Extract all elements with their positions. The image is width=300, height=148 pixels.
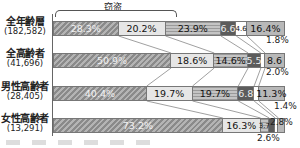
outside-value-label: 1.8%: [266, 35, 289, 45]
bar-segment: 19.7%: [147, 86, 193, 101]
bar-segment: 18.6%: [171, 53, 214, 68]
bar-segment: 4.6: [236, 21, 247, 36]
bar-segment: 16.4%: [247, 21, 285, 36]
bar-segment: 50.9%: [53, 53, 171, 68]
category-count: (13,291): [0, 124, 50, 133]
outside-value-label: 2.8%: [270, 117, 293, 127]
bar-segment: 19.7%: [193, 86, 239, 101]
category-count: (28,405): [0, 92, 50, 101]
bar-segment: 20.2%: [119, 21, 166, 36]
bar-segment: 40.4%: [53, 86, 147, 101]
bar-segment: 23.9%: [166, 21, 221, 36]
bar-row: 28.3%20.2%23.9%6.64.616.4%: [53, 21, 285, 36]
bar-segment: 11.3%: [259, 86, 285, 101]
outside-value-label: 2.0%: [266, 67, 289, 77]
legend: [6, 140, 150, 145]
row-label: 男性高齢者(28,405): [0, 81, 50, 101]
bar-segment: 16.3%: [223, 118, 261, 133]
bar-segment: 73.2%: [53, 118, 223, 133]
category-count: (182,582): [0, 27, 50, 36]
bar-segment: 6.8: [238, 86, 254, 101]
category-count: (41,696): [0, 59, 50, 68]
row-label: 女性高齢者(13,291): [0, 113, 50, 133]
row-label: 全高齢者(41,696): [0, 48, 50, 68]
outside-value-label: 1.4%: [274, 101, 297, 111]
bar-row: 50.9%18.6%14.6%5.58.6: [53, 53, 285, 68]
bar-segment: 8.6: [265, 53, 285, 68]
bar-row: 73.2%16.3%3.7: [53, 118, 285, 133]
bar-segment: 5.5: [248, 53, 261, 68]
bar-segment: 6.6: [221, 21, 236, 36]
outside-value-label: 2.6%: [257, 133, 280, 143]
bar-segment: 14.6%: [214, 53, 248, 68]
row-label: 全年齢層(182,582): [0, 16, 50, 36]
bar-row: 40.4%19.7%19.7%6.811.3%: [53, 86, 285, 101]
bar-segment: 3.7: [261, 118, 270, 133]
bar-segment: 28.3%: [53, 21, 119, 36]
